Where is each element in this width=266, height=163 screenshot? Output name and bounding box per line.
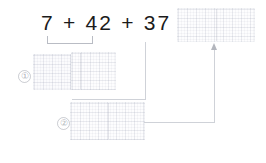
- step-one-box-left[interactable]: [33, 54, 71, 90]
- step-marker-two: ②: [57, 117, 70, 130]
- equation-text: 7 + 42 + 37 =: [41, 11, 194, 35]
- connector-horizontal-upper: [72, 99, 146, 100]
- grouping-bracket: [47, 36, 93, 44]
- worksheet-canvas: 7 + 42 + 37 = ① ②: [0, 0, 266, 163]
- step-one-box-right[interactable]: [71, 52, 116, 90]
- connector-vertical-left: [145, 42, 146, 100]
- step-marker-one: ①: [18, 70, 31, 83]
- arrow-up-icon: [211, 43, 217, 50]
- connector-horizontal-lower: [144, 122, 215, 123]
- grid-centre-rule: [108, 103, 109, 139]
- grid-centre-rule: [80, 53, 81, 89]
- connector-vertical-right: [214, 49, 215, 122]
- step-two-box[interactable]: [70, 102, 145, 140]
- final-answer-box[interactable]: [177, 8, 255, 42]
- grid-centre-rule: [216, 9, 217, 41]
